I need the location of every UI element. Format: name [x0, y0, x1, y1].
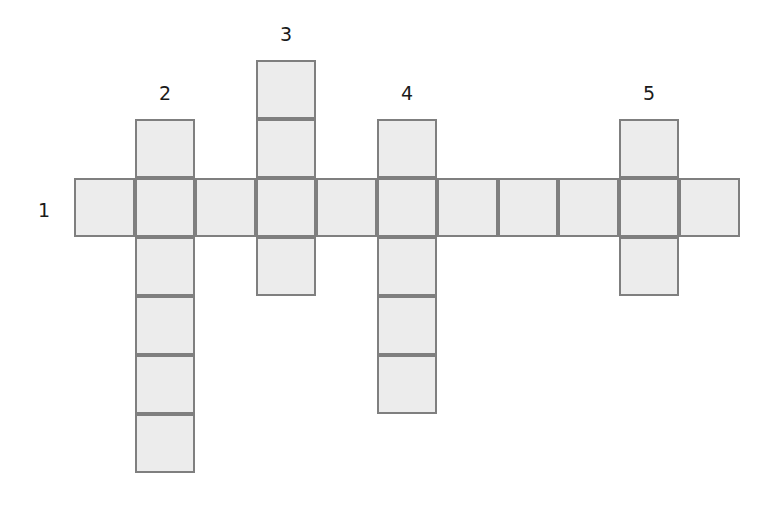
crossword-cell-r3-c1[interactable]	[135, 237, 196, 296]
crossword-cell-r0-c3[interactable]	[256, 60, 317, 119]
crossword-cell-r3-c5[interactable]	[377, 237, 438, 296]
crossword-cell-r5-c1[interactable]	[135, 355, 196, 414]
crossword-cell-r1-c3[interactable]	[256, 119, 317, 178]
crossword-cell-r2-c4[interactable]	[316, 178, 377, 237]
crossword-cell-r2-c0[interactable]	[74, 178, 135, 237]
crossword-cell-r6-c1[interactable]	[135, 414, 196, 473]
crossword-cell-r2-c10[interactable]	[679, 178, 740, 237]
crossword-cell-r2-c7[interactable]	[498, 178, 559, 237]
crossword-cell-r5-c5[interactable]	[377, 355, 438, 414]
crossword-cell-r2-c8[interactable]	[558, 178, 619, 237]
crossword-cell-r1-c5[interactable]	[377, 119, 438, 178]
crossword-cell-r2-c5[interactable]	[377, 178, 438, 237]
clue-number-1: 1	[38, 201, 50, 220]
crossword-cell-r4-c1[interactable]	[135, 296, 196, 355]
crossword-cell-r2-c2[interactable]	[195, 178, 256, 237]
clue-number-4: 4	[401, 84, 413, 103]
crossword-cell-r2-c9[interactable]	[619, 178, 680, 237]
clue-number-5: 5	[643, 84, 655, 103]
clue-number-3: 3	[280, 25, 292, 44]
clue-number-2: 2	[159, 84, 171, 103]
crossword-cell-r1-c1[interactable]	[135, 119, 196, 178]
crossword-cell-r3-c3[interactable]	[256, 237, 317, 296]
crossword-cell-r4-c5[interactable]	[377, 296, 438, 355]
crossword-cell-r1-c9[interactable]	[619, 119, 680, 178]
crossword-cell-r2-c1[interactable]	[135, 178, 196, 237]
crossword-cell-r2-c6[interactable]	[437, 178, 498, 237]
crossword-cell-r3-c9[interactable]	[619, 237, 680, 296]
crossword-cell-r2-c3[interactable]	[256, 178, 317, 237]
